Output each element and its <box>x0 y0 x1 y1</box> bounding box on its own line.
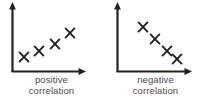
plot-area-positive <box>0 0 103 76</box>
caption-line-2: correlation <box>0 85 103 96</box>
caption-negative: negative correlation <box>104 74 207 96</box>
y-axis-arrowhead-icon <box>114 2 121 10</box>
data-point-marker <box>20 52 29 61</box>
data-point-marker <box>163 46 172 55</box>
y-axis-positive <box>9 2 16 72</box>
y-axis-arrowhead-icon <box>9 2 16 10</box>
plot-area-negative <box>104 0 207 76</box>
chart-panel-negative: negative correlation <box>104 0 207 100</box>
figure-root: positive correlation <box>0 0 207 100</box>
scatter-plot-positive <box>0 0 103 76</box>
scatter-plot-negative <box>104 0 207 76</box>
data-point-marker <box>173 54 182 63</box>
chart-panel-positive: positive correlation <box>0 0 103 100</box>
data-point-marker <box>35 46 44 55</box>
data-point-marker <box>151 34 160 43</box>
data-point-marker <box>51 39 60 48</box>
caption-line-1: negative <box>104 74 207 85</box>
data-points-positive <box>20 28 75 61</box>
data-point-marker <box>66 28 75 37</box>
y-axis-negative <box>114 2 121 72</box>
caption-positive: positive correlation <box>0 74 103 96</box>
data-points-negative <box>139 22 182 63</box>
caption-line-2: correlation <box>104 85 207 96</box>
caption-line-1: positive <box>0 74 103 85</box>
data-point-marker <box>139 22 148 31</box>
